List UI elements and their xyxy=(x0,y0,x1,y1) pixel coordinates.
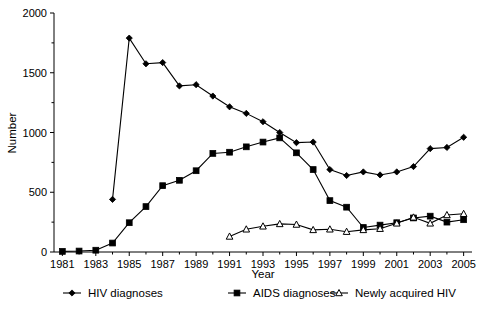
y-tick-label: 500 xyxy=(29,186,47,198)
data-point-square xyxy=(193,168,199,174)
data-point-square xyxy=(160,183,166,189)
data-point-square xyxy=(143,204,149,210)
data-point-diamond xyxy=(394,169,400,175)
x-tick-label: 1983 xyxy=(84,258,108,270)
data-point-diamond xyxy=(360,169,366,175)
legend-label: HIV diagnoses xyxy=(88,287,163,299)
data-point-square xyxy=(260,139,266,145)
series-2 xyxy=(59,135,466,254)
data-point-diamond xyxy=(327,166,333,172)
legend-item-2[interactable]: AIDS diagnoses xyxy=(228,287,336,299)
x-tick-label: 1999 xyxy=(351,258,375,270)
x-tick-label: 2005 xyxy=(451,258,475,270)
data-point-diamond xyxy=(444,144,450,150)
chart-legend: HIV diagnosesAIDS diagnosesNewly acquire… xyxy=(63,287,456,299)
data-point-square xyxy=(210,151,216,157)
x-axis-label: Year xyxy=(251,268,274,280)
data-point-square xyxy=(294,150,300,156)
chart-figure: 0500100015002000 19811983198519871989199… xyxy=(0,0,489,313)
data-point-square xyxy=(110,240,116,246)
x-tick-label: 1995 xyxy=(284,258,308,270)
line-chart: 0500100015002000 19811983198519871989199… xyxy=(0,0,489,313)
data-point-square xyxy=(310,167,316,173)
x-tick-label: 1997 xyxy=(318,258,342,270)
data-point-diamond xyxy=(260,119,266,125)
legend-item-3[interactable]: Newly acquired HIV xyxy=(330,287,456,299)
y-axis-ticks xyxy=(50,13,54,252)
x-tick-label: 1987 xyxy=(150,258,174,270)
data-point-diamond xyxy=(143,61,149,67)
data-point-square xyxy=(59,249,65,255)
y-tick-label: 1500 xyxy=(23,67,47,79)
data-point-diamond xyxy=(193,82,199,88)
series-line xyxy=(62,138,463,252)
data-point-diamond xyxy=(69,290,75,296)
data-point-square xyxy=(344,204,350,210)
data-point-square xyxy=(327,198,333,204)
y-axis-tick-labels: 0500100015002000 xyxy=(23,7,47,258)
data-point-diamond xyxy=(461,134,467,140)
x-tick-label: 2001 xyxy=(385,258,409,270)
x-tick-label: 2003 xyxy=(418,258,442,270)
x-tick-label: 1989 xyxy=(184,258,208,270)
data-point-square xyxy=(227,149,233,155)
chart-series-group xyxy=(59,35,467,254)
legend-label: Newly acquired HIV xyxy=(355,287,456,299)
x-tick-label: 1981 xyxy=(50,258,74,270)
data-point-square xyxy=(243,144,249,150)
x-axis-ticks xyxy=(62,252,463,256)
data-point-square xyxy=(126,220,132,226)
legend-item-1[interactable]: HIV diagnoses xyxy=(63,287,163,299)
data-point-diamond xyxy=(310,139,316,145)
data-point-diamond xyxy=(293,140,299,146)
data-point-triangle xyxy=(226,233,233,239)
x-tick-label: 1985 xyxy=(117,258,141,270)
data-point-square xyxy=(234,290,240,296)
data-point-square xyxy=(177,177,183,183)
y-tick-label: 1000 xyxy=(23,127,47,139)
data-point-diamond xyxy=(109,196,115,202)
data-point-diamond xyxy=(210,93,216,99)
data-point-square xyxy=(461,217,467,223)
y-tick-label: 0 xyxy=(41,246,47,258)
data-point-square xyxy=(277,135,283,141)
data-point-diamond xyxy=(344,172,350,178)
y-axis-label: Number xyxy=(6,112,18,153)
series-1 xyxy=(109,35,466,203)
y-tick-label: 2000 xyxy=(23,7,47,19)
data-point-square xyxy=(93,247,99,253)
data-point-diamond xyxy=(243,110,249,116)
data-point-square xyxy=(76,248,82,254)
data-point-diamond xyxy=(377,172,383,178)
x-tick-label: 1991 xyxy=(217,258,241,270)
data-point-square xyxy=(427,213,433,219)
data-point-diamond xyxy=(126,35,132,41)
legend-label: AIDS diagnoses xyxy=(253,287,336,299)
data-point-square xyxy=(444,219,450,225)
data-point-diamond xyxy=(226,104,232,110)
